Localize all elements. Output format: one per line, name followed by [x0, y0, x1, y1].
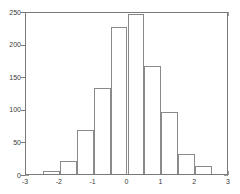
histogram-bar [144, 66, 161, 174]
histogram-bar [60, 161, 77, 174]
x-axis-tick-label: -2 [56, 178, 62, 185]
y-axis-tick-label: 150 [9, 74, 21, 81]
histogram-bar [94, 88, 111, 174]
x-axis-tick-label: -1 [90, 178, 96, 185]
y-axis-tick-inner [25, 175, 29, 176]
y-axis-tick-right [224, 175, 228, 176]
histogram-bar [178, 154, 195, 174]
bars-layer [26, 13, 227, 174]
histogram-bar [161, 112, 178, 174]
y-axis-tick-label: 250 [9, 9, 21, 16]
x-axis-tick [228, 171, 229, 175]
x-axis-tick-label: 3 [226, 178, 230, 185]
x-axis-tick-label: 0 [125, 178, 129, 185]
y-axis-tick-label: 50 [13, 139, 21, 146]
x-axis-tick-label: 1 [158, 178, 162, 185]
x-axis-tick-label: 2 [192, 178, 196, 185]
histogram-bar [128, 14, 145, 174]
histogram-bar [77, 130, 94, 174]
y-axis-tick-label: 200 [9, 41, 21, 48]
histogram-figure: 050100150200250 -3-2-10123 [0, 0, 240, 194]
x-axis-tick-top [228, 12, 229, 16]
histogram-bar [111, 27, 128, 174]
histogram-bar [195, 166, 212, 174]
plot-area [25, 12, 228, 175]
x-axis-tick-label: -3 [22, 178, 28, 185]
histogram-bar [43, 171, 60, 174]
y-axis-tick-label: 100 [9, 106, 21, 113]
